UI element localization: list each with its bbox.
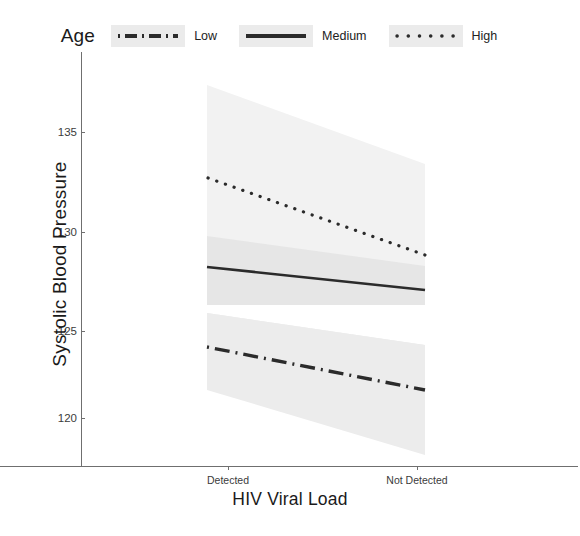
chart-canvas: [0, 0, 580, 536]
x-axis-line: [0, 466, 578, 467]
x-axis-title: HIV Viral Load: [0, 489, 580, 510]
y-axis-title: Systolic Blood Pressure: [49, 54, 71, 474]
x-tick-mark-not-detected: [417, 466, 418, 470]
y-tick-mark-120: [81, 418, 85, 419]
chart-figure: Age Low Medium High: [0, 0, 580, 536]
plot-area: 120 125 130 135 Detected Not Detected Sy…: [0, 0, 580, 536]
y-tick-mark-125: [81, 331, 85, 332]
y-tick-mark-130: [81, 232, 85, 233]
x-tick-label-detected: Detected: [207, 474, 249, 486]
y-tick-mark-135: [81, 132, 85, 133]
x-tick-label-not-detected: Not Detected: [386, 474, 447, 486]
x-tick-mark-detected: [228, 466, 229, 470]
y-axis-line: [81, 52, 82, 466]
